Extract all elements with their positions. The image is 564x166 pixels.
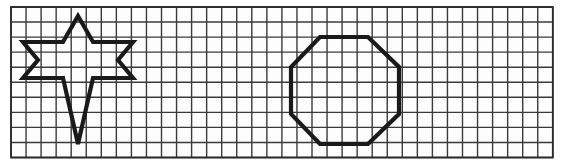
worksheet-canvas [0, 0, 564, 166]
worksheet-drawing [0, 0, 564, 166]
